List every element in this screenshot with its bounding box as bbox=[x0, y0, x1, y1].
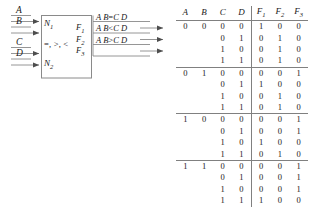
cell-f3: 1 bbox=[289, 172, 308, 183]
table-row: 1100001 bbox=[176, 161, 308, 173]
cell-c: 0 bbox=[213, 67, 232, 79]
table-row: 0000100 bbox=[176, 21, 308, 33]
cell-c: 0 bbox=[213, 21, 232, 33]
cell-c: 1 bbox=[213, 55, 232, 67]
operations-label: =, >, < bbox=[44, 40, 68, 49]
column-header-d: D bbox=[232, 6, 251, 21]
cell-f1: 0 bbox=[251, 126, 270, 137]
cell-f3: 0 bbox=[289, 44, 308, 55]
cell-d: 0 bbox=[232, 67, 251, 79]
cell-b bbox=[195, 184, 214, 195]
cell-f3: 0 bbox=[289, 79, 308, 90]
table-row: 11010 bbox=[176, 149, 308, 161]
cell-f1: 0 bbox=[251, 91, 270, 102]
output-expression-f3: A B>C D bbox=[96, 36, 127, 45]
cell-f3: 0 bbox=[289, 137, 308, 148]
cell-d: 1 bbox=[232, 55, 251, 67]
truth-table-header-row: ABCDF1F2F3 bbox=[176, 6, 308, 21]
column-header-b: B bbox=[195, 6, 214, 21]
cell-f3: 0 bbox=[289, 195, 308, 206]
cell-f1: 1 bbox=[251, 79, 270, 90]
cell-f2: 0 bbox=[271, 67, 290, 79]
cell-f1: 1 bbox=[251, 21, 270, 33]
output-expression-f1: A B=C D bbox=[96, 13, 127, 22]
cell-f1: 0 bbox=[251, 149, 270, 161]
cell-d: 1 bbox=[232, 172, 251, 183]
cell-f2: 0 bbox=[271, 137, 290, 148]
cell-d: 1 bbox=[232, 33, 251, 44]
cell-a bbox=[176, 44, 195, 55]
cell-b: 1 bbox=[195, 67, 214, 79]
pin-label-f2: F2 bbox=[76, 35, 84, 46]
column-header-f1: F1 bbox=[251, 6, 270, 21]
truth-table: ABCDF1F2F3 00001000101010010110100100001… bbox=[176, 6, 308, 207]
input-label-a: A bbox=[16, 6, 22, 16]
cell-a: 1 bbox=[176, 114, 195, 126]
column-header-sub: 2 bbox=[281, 11, 284, 18]
cell-d: 0 bbox=[232, 161, 251, 173]
operand-label-n2: N2 bbox=[44, 59, 53, 70]
cell-f2: 0 bbox=[271, 114, 290, 126]
cell-a: 1 bbox=[176, 161, 195, 173]
diagram-vector-layer bbox=[0, 0, 172, 224]
cell-a bbox=[176, 184, 195, 195]
expr-f3-right: C D bbox=[113, 35, 127, 45]
table-row: 10001 bbox=[176, 184, 308, 195]
truth-table-body: 0000100010101001011010010000101100100101… bbox=[176, 21, 308, 207]
cell-d: 0 bbox=[232, 91, 251, 102]
cell-f2: 0 bbox=[271, 195, 290, 206]
cell-c: 1 bbox=[213, 91, 232, 102]
cell-f2: 1 bbox=[271, 55, 290, 67]
cell-c: 1 bbox=[213, 184, 232, 195]
cell-a bbox=[176, 79, 195, 90]
cell-f1: 0 bbox=[251, 55, 270, 67]
cell-f3: 0 bbox=[289, 33, 308, 44]
cell-f2: 1 bbox=[271, 149, 290, 161]
cell-b bbox=[195, 91, 214, 102]
figure-root: A B C D N1 =, >, < N2 F1 F2 F3 A B=C D A… bbox=[0, 0, 312, 224]
table-row: 1000001 bbox=[176, 114, 308, 126]
cell-a bbox=[176, 137, 195, 148]
cell-c: 1 bbox=[213, 102, 232, 114]
column-header-base: A bbox=[183, 7, 189, 17]
operand-n2-sub: 2 bbox=[50, 63, 53, 70]
cell-f2: 0 bbox=[271, 21, 290, 33]
cell-d: 0 bbox=[232, 137, 251, 148]
column-header-base: C bbox=[220, 7, 226, 17]
operand-n1-sub: 1 bbox=[50, 23, 53, 30]
table-row: 01100 bbox=[176, 79, 308, 90]
cell-f3: 1 bbox=[289, 184, 308, 195]
column-header-sub: 1 bbox=[262, 11, 265, 18]
comparator-block-diagram: A B C D N1 =, >, < N2 F1 F2 F3 A B=C D A… bbox=[0, 0, 172, 224]
cell-c: 0 bbox=[213, 126, 232, 137]
cell-b bbox=[195, 44, 214, 55]
table-row: 0100001 bbox=[176, 67, 308, 79]
cell-c: 0 bbox=[213, 161, 232, 173]
cell-f2: 1 bbox=[271, 102, 290, 114]
cell-a bbox=[176, 195, 195, 206]
cell-a bbox=[176, 149, 195, 161]
cell-f2: 1 bbox=[271, 33, 290, 44]
cell-f3: 0 bbox=[289, 21, 308, 33]
table-row: 10010 bbox=[176, 91, 308, 102]
cell-d: 1 bbox=[232, 126, 251, 137]
cell-b: 1 bbox=[195, 161, 214, 173]
cell-a bbox=[176, 33, 195, 44]
cell-d: 1 bbox=[232, 102, 251, 114]
column-header-c: C bbox=[213, 6, 232, 21]
cell-f3: 0 bbox=[289, 91, 308, 102]
cell-b: 0 bbox=[195, 21, 214, 33]
column-header-f3: F3 bbox=[289, 6, 308, 21]
cell-c: 1 bbox=[213, 137, 232, 148]
output-expression-f2: A B<C D bbox=[96, 24, 127, 33]
cell-f2: 0 bbox=[271, 172, 290, 183]
column-header-sub: 3 bbox=[300, 11, 303, 18]
table-row: 11010 bbox=[176, 102, 308, 114]
table-row: 11100 bbox=[176, 195, 308, 206]
cell-c: 0 bbox=[213, 33, 232, 44]
input-label-d: D bbox=[16, 49, 23, 59]
cell-c: 0 bbox=[213, 172, 232, 183]
cell-d: 1 bbox=[232, 149, 251, 161]
cell-b bbox=[195, 126, 214, 137]
cell-f1: 0 bbox=[251, 172, 270, 183]
